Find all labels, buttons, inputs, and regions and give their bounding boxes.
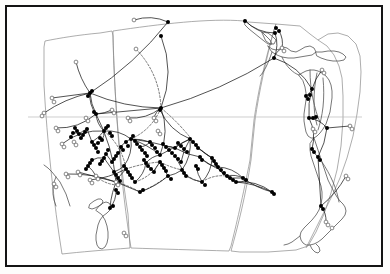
node-marker-filled <box>119 145 123 149</box>
node-marker-filled <box>79 136 83 140</box>
node-marker-hollow <box>346 177 350 181</box>
node-marker-filled <box>308 93 312 97</box>
node-marker-hollow <box>56 129 60 133</box>
node-marker-filled <box>273 31 277 35</box>
node-marker-hollow <box>62 145 66 149</box>
node-marker-filled <box>104 152 108 156</box>
route-link-solid <box>327 126 350 128</box>
node-marker-filled <box>179 160 183 164</box>
node-marker-filled <box>170 151 174 155</box>
node-marker-hollow <box>313 130 317 134</box>
node-marker-filled <box>84 167 88 171</box>
node-marker-filled <box>321 207 325 211</box>
node-marker-filled <box>176 141 180 145</box>
node-marker-filled <box>110 160 114 164</box>
node-marker-filled <box>96 141 100 145</box>
node-marker-hollow <box>350 127 354 131</box>
node-marker-filled <box>179 144 183 148</box>
node-marker-filled <box>140 148 144 152</box>
node-group <box>40 18 354 238</box>
node-marker-filled <box>185 150 189 154</box>
route-link-solid <box>76 62 90 93</box>
node-marker-filled <box>73 126 77 130</box>
node-marker-hollow <box>322 71 326 75</box>
node-marker-filled <box>272 192 276 196</box>
node-marker-filled <box>191 140 195 144</box>
node-marker-filled <box>200 158 204 162</box>
route-link-solid <box>96 108 161 114</box>
route-link-solid <box>202 158 212 182</box>
node-marker-filled <box>158 108 162 112</box>
node-marker-hollow <box>134 47 138 51</box>
node-marker-filled <box>310 87 314 91</box>
dashed-link-group <box>96 49 227 192</box>
node-marker-filled <box>274 26 278 30</box>
node-marker-filled <box>92 110 96 114</box>
route-link-dashed <box>136 49 161 108</box>
node-marker-filled <box>188 137 192 141</box>
node-marker-filled <box>90 89 94 93</box>
node-marker-hollow <box>154 119 158 123</box>
node-marker-hollow <box>282 49 286 53</box>
node-marker-filled <box>96 150 100 154</box>
node-marker-filled <box>169 177 173 181</box>
node-marker-filled <box>133 180 137 184</box>
node-marker-filled <box>149 167 153 171</box>
node-marker-filled <box>106 124 110 128</box>
node-marker-filled <box>130 176 134 180</box>
coastline-path <box>89 199 103 209</box>
node-marker-filled <box>222 171 226 175</box>
route-link-solid <box>182 139 190 170</box>
node-marker-filled <box>173 154 177 158</box>
node-marker-filled <box>325 126 329 130</box>
node-marker-hollow <box>52 100 56 104</box>
node-marker-hollow <box>78 173 82 177</box>
coastline-path <box>300 138 346 245</box>
node-marker-filled <box>153 146 157 150</box>
node-marker-filled <box>118 179 122 183</box>
node-marker-filled <box>312 150 316 154</box>
route-link-solid <box>90 93 161 108</box>
node-marker-filled <box>86 94 90 98</box>
node-marker-filled <box>159 34 163 38</box>
node-marker-filled <box>176 157 180 161</box>
node-marker-filled <box>111 204 115 208</box>
node-marker-filled <box>216 165 220 169</box>
node-marker-filled <box>311 116 315 120</box>
coastline-group <box>44 20 346 253</box>
node-marker-filled <box>219 168 223 172</box>
node-marker-hollow <box>158 132 162 136</box>
route-link-solid <box>279 31 283 48</box>
route-link-solid <box>52 93 90 98</box>
route-link-dashed <box>126 162 160 169</box>
node-marker-filled <box>141 188 145 192</box>
node-marker-filled <box>124 140 128 144</box>
node-marker-filled <box>145 154 149 158</box>
node-marker-filled <box>135 142 139 146</box>
figure-root: Pacific Ocean voyaging and exchange netw… <box>0 0 390 274</box>
node-marker-filled <box>98 162 102 166</box>
node-marker-filled <box>131 134 135 138</box>
node-marker-filled <box>161 142 165 146</box>
route-link-solid <box>318 157 321 206</box>
node-marker-filled <box>196 146 200 150</box>
node-marker-filled <box>152 170 156 174</box>
node-marker-filled <box>164 145 168 149</box>
node-marker-hollow <box>50 96 54 100</box>
node-marker-filled <box>166 174 170 178</box>
node-marker-filled <box>90 140 94 144</box>
coastline-path <box>268 46 316 58</box>
node-marker-filled <box>318 158 322 162</box>
node-marker-filled <box>277 29 281 33</box>
node-marker-filled <box>243 19 247 23</box>
node-marker-filled <box>98 136 102 140</box>
node-marker-hollow <box>96 177 100 181</box>
node-marker-filled <box>146 164 150 168</box>
node-marker-filled <box>116 191 120 195</box>
route-link-solid <box>274 58 312 89</box>
coastline-path <box>310 244 320 253</box>
node-marker-hollow <box>124 234 128 238</box>
node-marker-hollow <box>54 185 58 189</box>
node-marker-filled <box>69 135 73 139</box>
sheet-outline <box>44 31 130 254</box>
